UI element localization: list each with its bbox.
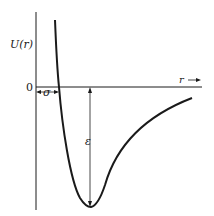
r-arrow-head (196, 78, 201, 82)
epsilon-arrow-head-top (88, 87, 92, 93)
y-axis-label: U(r) (10, 38, 33, 51)
x-axis-label: r (179, 74, 185, 85)
origin-label: 0 (26, 81, 33, 94)
potential-curve (55, 20, 192, 207)
sigma-arrow-head-left (36, 90, 41, 94)
sigma-label: σ (43, 86, 51, 99)
potential-diagram: U(r) 0 σ ε r (0, 0, 214, 216)
epsilon-label: ε (85, 135, 91, 148)
sigma-arrow-head-right (54, 90, 59, 94)
